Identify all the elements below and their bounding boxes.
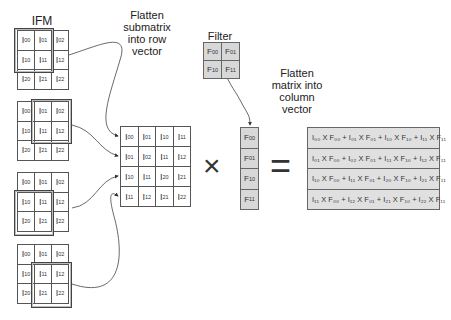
matrix-cell: I12 — [52, 193, 69, 213]
matrix-cell: F01 — [241, 149, 259, 170]
matrix-cell: I10 — [156, 127, 174, 147]
sliding-window — [14, 28, 54, 73]
matrix-cell: I22 — [174, 187, 192, 207]
matrix-cell: F11 — [222, 61, 240, 79]
matrix-cell: I10 — [121, 167, 139, 187]
matrix-cell: F00 — [241, 128, 259, 149]
label-line: vector — [112, 45, 182, 57]
label-line: submatrix — [112, 21, 182, 33]
sliding-window — [14, 190, 54, 236]
matrix-cell: I12 — [139, 187, 157, 207]
matrix-cell: I22 — [52, 70, 69, 90]
matrix-cell: I11 — [139, 167, 157, 187]
label-line: Flatten — [112, 9, 182, 21]
sliding-window — [31, 99, 72, 144]
matrix-cell: I12 — [52, 51, 69, 71]
matrix-cell: I02 — [139, 147, 157, 167]
result-row: I₁₀ X F₀₀ + I₁₁ X F₀₁ + I₂₀ X F₁₀ + I₂₁ … — [308, 169, 440, 190]
matrix-cell: F10 — [204, 61, 222, 79]
matrix-cell: I01 — [121, 147, 139, 167]
matrix-cell: I21 — [174, 167, 192, 187]
row-matrix: I00I01I10I11I01I02I11I12I10I11I20I21I11I… — [120, 126, 191, 207]
label-line: Flatten — [262, 67, 332, 79]
ifm-label: IFM — [18, 15, 66, 27]
matrix-cell: I11 — [174, 127, 192, 147]
label-line: matrix into — [262, 79, 332, 91]
filter-matrix: F00F01F10F11 — [203, 42, 240, 79]
matrix-cell: F01 — [222, 43, 240, 61]
flatten-col-label: Flatten matrix into column vector — [262, 67, 332, 115]
column-vector: F00F01F10F11 — [240, 127, 259, 210]
sliding-window — [31, 262, 72, 308]
filter-label: Filter — [200, 30, 240, 42]
flatten-row-label: Flatten submatrix into row vector — [112, 9, 182, 57]
matrix-cell: I11 — [156, 147, 174, 167]
matrix-cell: F10 — [241, 169, 259, 190]
matrix-cell: I12 — [174, 147, 192, 167]
result-row: I₀₀ X F₀₀ + I₀₁ X F₀₁ + I₁₀ X F₁₀ + I₁₁ … — [308, 128, 440, 149]
matrix-cell: I00 — [121, 127, 139, 147]
label-line: vector — [262, 103, 332, 115]
result-vector: I₀₀ X F₀₀ + I₀₁ X F₀₁ + I₁₀ X F₁₀ + I₁₁ … — [307, 127, 440, 210]
label-line: column — [262, 91, 332, 103]
matrix-cell: I21 — [156, 187, 174, 207]
result-row: I₀₁ X F₀₀ + I₀₂ X F₀₁ + I₁₁ X F₁₀ + I₁₂ … — [308, 149, 440, 170]
matrix-cell: I20 — [156, 167, 174, 187]
label-line: into row — [112, 33, 182, 45]
matrix-cell: I01 — [139, 127, 157, 147]
matrix-cell: I02 — [52, 31, 69, 51]
matrix-cell: F11 — [241, 190, 259, 211]
matrix-cell: I11 — [121, 187, 139, 207]
equals-sign: = — [270, 151, 291, 181]
multiply-sign: × — [203, 151, 221, 181]
matrix-cell: I02 — [52, 173, 69, 193]
matrix-cell: F00 — [204, 43, 222, 61]
matrix-cell: I22 — [52, 212, 69, 232]
result-row: I₁₁ X F₀₀ + I₁₂ X F₀₁ + I₂₁ X F₁₀ + I₂₂ … — [308, 190, 440, 211]
